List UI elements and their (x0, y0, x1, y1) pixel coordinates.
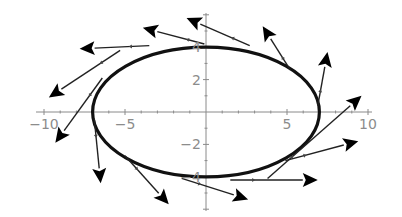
arrowhead-icon (49, 83, 65, 97)
arrowhead-icon (80, 41, 95, 55)
arrowhead-icon (303, 173, 318, 187)
arrowhead-icon (342, 138, 358, 152)
arrow-mid-marker (129, 44, 132, 48)
arrowhead-icon (263, 26, 277, 42)
y-tick-label: 2 (192, 72, 201, 88)
arrow-shaft (271, 39, 291, 70)
x-tick-label: −5 (115, 116, 136, 132)
ellipse-vector-field-plot: −10−551042−2−4 (0, 0, 402, 217)
arrow-mid-marker (252, 178, 255, 182)
arrow-shaft (268, 106, 351, 179)
vector-arrow (263, 26, 291, 70)
axes (36, 13, 372, 211)
vector-arrow (268, 96, 362, 179)
x-tick-label: 10 (359, 116, 377, 132)
arrowhead-icon (232, 188, 248, 201)
arrowhead-icon (92, 168, 106, 184)
arrow-shaft (95, 46, 150, 49)
arrow-shaft (125, 156, 159, 193)
vector-arrow (318, 52, 332, 105)
y-tick-label: −4 (180, 169, 201, 185)
arrow-shaft (61, 50, 120, 89)
arrowhead-icon (318, 52, 332, 68)
vector-arrow (92, 118, 106, 183)
arrow-shaft (64, 78, 102, 131)
vector-arrow (230, 173, 317, 187)
arrow-mid-marker (94, 134, 98, 137)
arrow-shaft (200, 24, 249, 46)
y-tick-label: −2 (180, 136, 201, 152)
arrow-shaft (318, 67, 325, 106)
x-tick-label: −10 (29, 116, 59, 132)
arrowhead-icon (346, 96, 362, 111)
y-tick-label: 4 (192, 39, 201, 55)
arrowhead-icon (143, 25, 159, 39)
vector-arrow (49, 50, 120, 97)
x-tick-label: 5 (283, 116, 292, 132)
vector-arrow (125, 156, 169, 205)
vector-arrow (80, 41, 150, 55)
